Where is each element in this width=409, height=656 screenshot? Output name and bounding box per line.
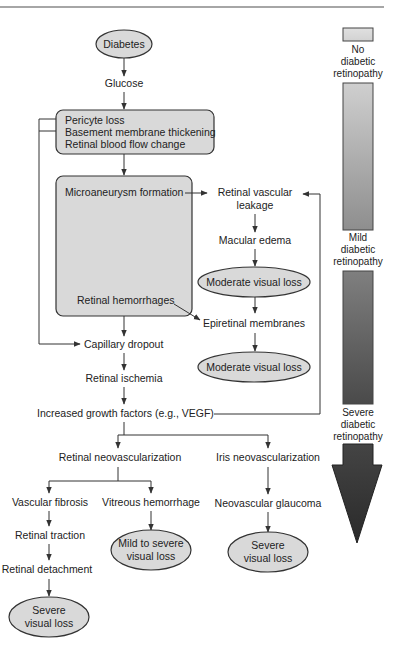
node-iris-neo: Iris neovascularization	[216, 451, 320, 463]
node-microvascular-box: Microaneurysm formation Retinal hemorrha…	[56, 176, 192, 316]
node-vitreous-hem: Vitreous hemorrhage	[102, 496, 200, 508]
node-mild-severe-loss: Mild to severe visual loss	[111, 530, 191, 570]
mild-severe-loss-l1: Mild to severe	[118, 537, 184, 549]
node-fibrosis: Vascular fibrosis	[12, 496, 88, 508]
severe-loss-iris-l1: Severe	[251, 539, 284, 551]
severity-arrow-icon	[332, 444, 382, 543]
node-moderate-loss-1-label: Moderate visual loss	[206, 276, 302, 288]
stage-mild-l2: diabetic	[341, 244, 375, 255]
mild-severe-loss-l2: visual loss	[127, 550, 175, 562]
node-moderate-loss-2-label: Moderate visual loss	[206, 361, 302, 373]
severe-loss-detach-l2: visual loss	[25, 617, 73, 629]
node-early-changes: Pericyte loss Basement membrane thickeni…	[56, 110, 216, 154]
scale-segment-none	[343, 28, 373, 41]
stage-none-l3: retinopathy	[333, 68, 382, 79]
node-diabetes-label: Diabetes	[103, 38, 144, 50]
scale-segment-mild	[343, 83, 373, 230]
severe-loss-detach-l1: Severe	[32, 604, 65, 616]
node-moderate-loss-1: Moderate visual loss	[198, 267, 310, 297]
stage-severe-l3: retinopathy	[333, 431, 382, 442]
node-capillary-dropout: Capillary dropout	[84, 338, 163, 350]
stage-none-l1: No	[352, 44, 365, 55]
stage-none-l2: diabetic	[341, 56, 375, 67]
node-traction: Retinal traction	[15, 529, 85, 541]
node-diabetes: Diabetes	[96, 30, 152, 58]
node-moderate-loss-2: Moderate visual loss	[198, 352, 310, 382]
node-severe-loss-iris: Severe visual loss	[228, 532, 308, 572]
stage-severe-l1: Severe	[342, 407, 374, 418]
node-microaneurysm: Microaneurysm formation	[65, 186, 184, 198]
severity-scale: No diabetic retinopathy Mild diabetic re…	[332, 28, 383, 543]
scale-segment-severe	[343, 271, 373, 404]
stage-mild-l1: Mild	[349, 232, 367, 243]
node-retinal-neo: Retinal neovascularization	[59, 451, 182, 463]
node-growth-factors: Increased growth factors (e.g., VEGF)	[37, 407, 214, 419]
node-severe-loss-detach: Severe visual loss	[9, 597, 89, 637]
node-hemorrhages: Retinal hemorrhages	[77, 294, 174, 306]
node-detachment: Retinal detachment	[2, 563, 93, 575]
node-macular-edema: Macular edema	[219, 234, 292, 246]
node-epiretinal: Epiretinal membranes	[203, 317, 305, 329]
early-item-1: Basement membrane thickening	[65, 126, 216, 138]
node-vascular-leakage-l1: Retinal vascular	[218, 186, 293, 198]
severe-loss-iris-l2: visual loss	[244, 552, 292, 564]
diabetic-retinopathy-flowchart: Diabetes Glucose Pericyte loss Basement …	[0, 0, 409, 656]
stage-mild-l3: retinopathy	[333, 256, 382, 267]
early-item-2: Retinal blood flow change	[65, 138, 185, 150]
stage-severe-l2: diabetic	[341, 419, 375, 430]
early-item-0: Pericyte loss	[65, 114, 125, 126]
node-glucose: Glucose	[105, 77, 144, 89]
node-glaucoma: Neovascular glaucoma	[215, 497, 322, 509]
node-ischemia: Retinal ischemia	[85, 372, 162, 384]
node-vascular-leakage-l2: leakage	[237, 199, 274, 211]
